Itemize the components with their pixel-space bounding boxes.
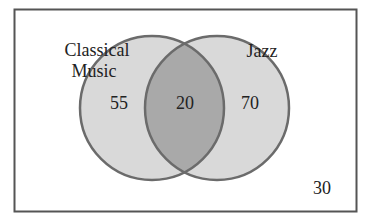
classical-only-count: 55 bbox=[110, 93, 128, 113]
jazz-only-count: 70 bbox=[241, 93, 259, 113]
classical-label-line1: Classical bbox=[65, 40, 130, 60]
venn-diagram: Classical Music Jazz 55 20 70 30 bbox=[0, 0, 366, 223]
outside-count: 30 bbox=[313, 178, 331, 198]
intersection-count: 20 bbox=[176, 93, 194, 113]
classical-label-line2: Music bbox=[72, 61, 117, 81]
jazz-label: Jazz bbox=[247, 41, 278, 61]
